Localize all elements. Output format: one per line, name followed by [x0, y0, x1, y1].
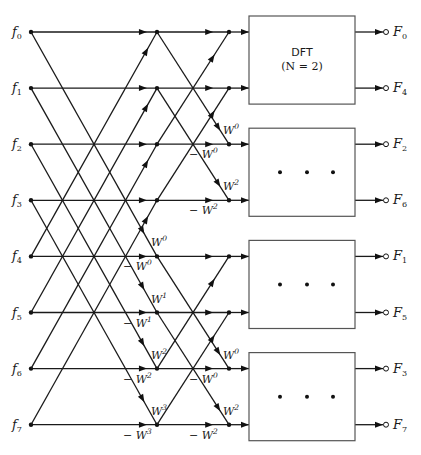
weight-stage1-horiz: − W0 — [123, 258, 152, 273]
exponent: 0 — [213, 371, 218, 380]
subscript: 6 — [17, 369, 22, 378]
ellipsis-dot — [331, 170, 335, 174]
subscript: 6 — [402, 200, 407, 209]
subscript: 1 — [17, 88, 22, 97]
exponent: 2 — [212, 202, 218, 211]
weight-stage1-diag: W3 — [151, 403, 167, 418]
exponent: 0 — [234, 347, 239, 356]
arrow-head-icon — [208, 54, 215, 62]
arrow-head-icon — [139, 141, 147, 147]
arrow-head-icon — [142, 160, 149, 168]
dft-box — [249, 240, 355, 328]
output-terminal-icon — [384, 310, 389, 315]
arrow-head-icon — [214, 178, 221, 186]
output-label-F1: F1 — [392, 248, 407, 265]
exponent: 2 — [233, 403, 239, 412]
dft-box — [249, 128, 355, 216]
weight-stage2-diag: W0 — [223, 122, 239, 137]
arrow-head-icon — [208, 279, 215, 287]
input-label-f7: f7 — [11, 417, 22, 434]
arrow-head-icon — [205, 310, 213, 316]
ellipsis-dot — [278, 395, 282, 399]
weight-stage2-horiz: − W2 — [189, 427, 218, 442]
subscript: 4 — [17, 256, 22, 265]
subscript: 0 — [402, 32, 407, 41]
weight-stage2-horiz: − W0 — [189, 371, 218, 386]
subscript: 3 — [402, 369, 407, 378]
output-terminal-icon — [384, 86, 389, 91]
exponent: 3 — [147, 427, 152, 436]
arrow-head-icon — [205, 422, 213, 428]
output-label-F5: F5 — [392, 305, 407, 322]
arrow-head-icon — [142, 216, 149, 224]
ellipsis-dot — [278, 282, 282, 286]
exponent: 2 — [161, 347, 167, 356]
input-label-f0: f0 — [11, 24, 22, 41]
arrow-head-icon — [375, 310, 383, 316]
output-label-F3: F3 — [392, 361, 407, 378]
exponent: 1 — [162, 291, 167, 300]
arrow-head-icon — [139, 253, 147, 259]
exponent: 2 — [233, 178, 239, 187]
ellipsis-dot — [305, 170, 309, 174]
box-subtitle: (N = 2) — [281, 60, 322, 73]
subscript: 7 — [402, 425, 407, 434]
ellipsis-dot — [331, 395, 335, 399]
ellipsis-dot — [331, 282, 335, 286]
arrow-head-icon — [139, 29, 147, 35]
output-label-F2: F2 — [392, 136, 407, 153]
output-terminal-icon — [384, 142, 389, 147]
arrow-head-icon — [375, 197, 383, 203]
arrow-head-icon — [214, 403, 221, 411]
exponent: 0 — [162, 234, 167, 243]
arrow-head-icon — [241, 197, 249, 203]
input-label-f2: f2 — [11, 136, 22, 153]
weight-stage1-horiz: − W2 — [123, 371, 152, 386]
arrow-head-icon — [138, 338, 145, 346]
arrow-head-icon — [375, 366, 383, 372]
arrow-head-icon — [214, 122, 221, 130]
arrow-head-icon — [205, 85, 213, 91]
exponent: 3 — [162, 403, 167, 412]
ellipsis-dot — [305, 282, 309, 286]
arrow-head-icon — [375, 141, 383, 147]
arrow-head-icon — [205, 253, 213, 259]
exponent: 2 — [146, 371, 152, 380]
arrow-head-icon — [205, 141, 213, 147]
subscript: 5 — [402, 313, 407, 322]
subscript: 2 — [402, 144, 407, 153]
weight-stage1-diag: W0 — [151, 234, 167, 249]
output-label-F4: F4 — [392, 80, 407, 97]
arrow-head-icon — [241, 29, 249, 35]
subscript: 0 — [17, 32, 22, 41]
arrow-head-icon — [205, 366, 213, 372]
output-label-F6: F6 — [392, 192, 407, 209]
arrow-head-icon — [241, 366, 249, 372]
arrow-head-icon — [139, 197, 147, 203]
subscript: 4 — [402, 88, 407, 97]
ellipsis-dot — [305, 395, 309, 399]
output-terminal-icon — [384, 30, 389, 35]
arrow-head-icon — [375, 85, 383, 91]
output-terminal-icon — [384, 198, 389, 203]
exponent: 0 — [234, 122, 239, 131]
output-terminal-icon — [384, 366, 389, 371]
weight-stage1-horiz: − W1 — [123, 315, 152, 330]
exponent: 0 — [213, 146, 218, 155]
arrow-head-icon — [214, 347, 221, 355]
arrow-head-icon — [375, 253, 383, 259]
output-label-F7: F7 — [392, 417, 407, 434]
box-title: DFT — [291, 46, 313, 59]
exponent: 0 — [147, 258, 152, 267]
input-label-f5: f5 — [11, 305, 22, 322]
arrow-head-icon — [241, 85, 249, 91]
arrow-head-icon — [375, 422, 383, 428]
input-label-f3: f3 — [11, 192, 22, 209]
arrow-head-icon — [139, 310, 147, 316]
arrow-head-icon — [138, 394, 145, 402]
output-label-F0: F0 — [392, 24, 407, 41]
arrow-head-icon — [139, 422, 147, 428]
weight-stage1-diag: W1 — [151, 291, 167, 306]
weight-stage2-horiz: − W2 — [189, 202, 218, 217]
weight-stage2-diag: W2 — [223, 403, 239, 418]
